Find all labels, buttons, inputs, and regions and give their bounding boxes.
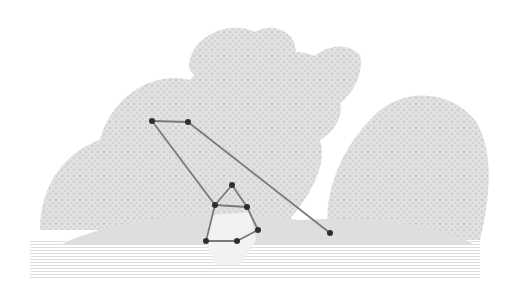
bush-right [327,96,488,240]
keypoint-p4 [212,202,218,208]
keypoint-p8 [234,238,240,244]
keypoint-p9 [327,230,333,236]
keypoint-edge [152,121,188,122]
keypoint-p2 [185,119,191,125]
keypoint-p6 [255,227,261,233]
keypoint-p7 [203,238,209,244]
keypoint-p1 [149,118,155,124]
landscape-background [30,28,489,280]
tree-canopy-left [40,51,341,230]
water-hatching [30,240,480,280]
engraving-scene [0,0,515,304]
keypoint-p5 [244,204,250,210]
keypoint-p3 [229,182,235,188]
